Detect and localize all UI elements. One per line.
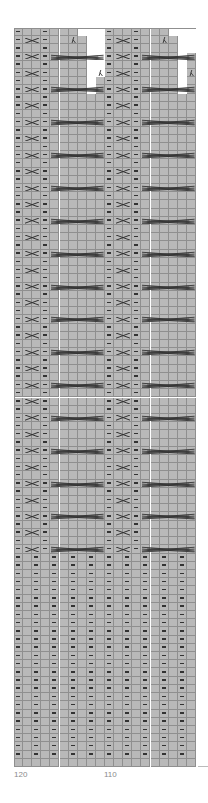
- stitch-cell: [160, 439, 169, 447]
- stitch-cell: [14, 480, 23, 488]
- stitch-cell: [14, 554, 23, 562]
- stitch-cell: [151, 521, 160, 529]
- stitch-cell: [187, 701, 196, 709]
- stitch-cell: [187, 102, 196, 110]
- stitch-cell: [123, 537, 132, 545]
- cable-6st-icon: [51, 513, 104, 519]
- stitch-cell: [87, 521, 96, 529]
- stitch-cell: [178, 759, 187, 767]
- purl-icon: [52, 630, 56, 632]
- purl-icon: [180, 687, 184, 689]
- stitch-cell: [87, 110, 96, 118]
- stitch-cell: [151, 324, 160, 332]
- stitch-cell: [60, 734, 69, 742]
- stitch-cell: [178, 340, 187, 348]
- stitch-cell: [132, 660, 141, 668]
- stitch-cell: [105, 102, 114, 110]
- purl-icon: [107, 638, 111, 640]
- stitch-cell: [105, 44, 114, 52]
- stitch-cell: [123, 192, 132, 200]
- stitch-cell: [60, 192, 69, 200]
- stitch-cell: [141, 726, 150, 734]
- stitch-cell: [60, 529, 69, 537]
- stitch-cell: [114, 209, 123, 217]
- purl-icon: [125, 589, 129, 591]
- purl-icon: [34, 679, 38, 681]
- cross-2st-icon: [116, 547, 130, 552]
- stitch-cell: [87, 652, 96, 660]
- stitch-cell: [87, 619, 96, 627]
- stitch-cell: [132, 110, 141, 118]
- stitch-cell: [60, 422, 69, 430]
- stitch-cell: [41, 307, 50, 315]
- stitch-cell: [141, 496, 150, 504]
- purl-icon: [71, 671, 75, 673]
- stitch-cell: [169, 586, 178, 594]
- stitch-cell: [78, 340, 87, 348]
- stitch-cell: [141, 102, 150, 110]
- stitch-cell: [14, 151, 23, 159]
- stitch-cell: [50, 660, 59, 668]
- purl-icon: [52, 638, 56, 640]
- purl-icon: [107, 597, 111, 599]
- purl-icon: [43, 490, 47, 492]
- stitch-cell: [78, 652, 87, 660]
- stitch-cell: [78, 274, 87, 282]
- purl-icon: [16, 392, 20, 394]
- stitch-cell: [169, 373, 178, 381]
- stitch-cell: [151, 668, 160, 676]
- stitch-cell: [78, 127, 87, 135]
- stitch-cell: [114, 751, 123, 759]
- purl-icon: [16, 400, 20, 402]
- purl-icon: [134, 88, 138, 90]
- stitch-cell: [178, 570, 187, 578]
- purl-icon: [134, 499, 138, 501]
- stitch-cell: [187, 710, 196, 718]
- stitch-cell: [105, 381, 114, 389]
- stitch-cell: [14, 44, 23, 52]
- stitch-cell: [96, 274, 105, 282]
- stitch-cell: [141, 266, 150, 274]
- stitch-cell: [151, 168, 160, 176]
- stitch-cell: [96, 266, 105, 274]
- stitch-cell: [50, 742, 59, 750]
- stitch-cell: [114, 44, 123, 52]
- purl-icon: [16, 31, 20, 33]
- purl-icon: [43, 449, 47, 451]
- stitch-cell: [41, 200, 50, 208]
- stitch-cell: [187, 603, 196, 611]
- stitch-cell: [178, 611, 187, 619]
- stitch-cell: [87, 636, 96, 644]
- stitch-cell: [50, 44, 59, 52]
- stitch-cell: [187, 455, 196, 463]
- stitch-cell: [114, 356, 123, 364]
- stitch-cell: [132, 118, 141, 126]
- stitch-cell: [169, 225, 178, 233]
- purl-icon: [125, 679, 129, 681]
- stitch-cell: [141, 44, 150, 52]
- stitch-cell: [123, 77, 132, 85]
- stitch-cell: [32, 521, 41, 529]
- stitch-cell: [151, 127, 160, 135]
- stitch-cell: [114, 422, 123, 430]
- stitch-cell: [187, 496, 196, 504]
- stitch-cell: [169, 241, 178, 249]
- stitch-cell: [69, 710, 78, 718]
- purl-icon: [16, 671, 20, 673]
- purl-icon: [134, 417, 138, 419]
- stitch-cell: [105, 192, 114, 200]
- stitch-cell: [169, 759, 178, 767]
- stitch-cell: [132, 102, 141, 110]
- stitch-cell: [14, 250, 23, 258]
- stitch-cell: [160, 406, 169, 414]
- stitch-cell: [96, 307, 105, 315]
- stitch-cell: [32, 554, 41, 562]
- purl-icon: [71, 729, 75, 731]
- stitch-cell: [132, 143, 141, 151]
- stitch-cell: [32, 742, 41, 750]
- stitch-cell: [78, 324, 87, 332]
- stitch-cell: [78, 77, 87, 85]
- purl-icon: [34, 573, 38, 575]
- stitch-cell: [105, 36, 114, 44]
- stitch-cell: [169, 36, 178, 44]
